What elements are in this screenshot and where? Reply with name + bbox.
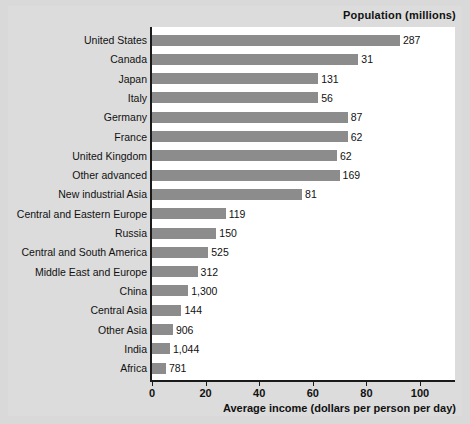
- bar-row: France62: [0, 130, 470, 144]
- bar-population-label: 287: [403, 33, 421, 47]
- bar-population-label: 312: [201, 265, 219, 279]
- category-label: China: [0, 284, 147, 298]
- bar: [152, 305, 181, 316]
- x-tick-80: [366, 380, 367, 386]
- x-tick-label-40: 40: [253, 387, 265, 399]
- bar-population-label: 87: [351, 110, 363, 124]
- category-label: Japan: [0, 72, 147, 86]
- bar-population-label: 150: [219, 226, 237, 240]
- category-label: Central and South America: [0, 245, 147, 259]
- bar-population-label: 1,044: [173, 342, 199, 356]
- bar-population-label: 31: [361, 52, 373, 66]
- bar: [152, 247, 208, 258]
- x-tick-label-0: 0: [149, 387, 155, 399]
- bar-row: Central and Eastern Europe119: [0, 207, 470, 221]
- bar: [152, 170, 340, 181]
- category-label: Africa: [0, 361, 147, 375]
- bar: [152, 92, 318, 103]
- bar-row: Africa781: [0, 361, 470, 375]
- bar: [152, 266, 198, 277]
- bar-row: Other Asia906: [0, 323, 470, 337]
- bar: [152, 228, 216, 239]
- bar: [152, 343, 170, 354]
- bar-row: United States287: [0, 33, 470, 47]
- x-tick-20: [206, 380, 207, 386]
- bar: [152, 208, 226, 219]
- x-tick-label-20: 20: [199, 387, 211, 399]
- bar-population-label: 169: [343, 168, 361, 182]
- bar-row: Central Asia144: [0, 303, 470, 317]
- category-label: Other Asia: [0, 323, 147, 337]
- bar-population-label: 906: [176, 323, 194, 337]
- x-tick-label-100: 100: [411, 387, 429, 399]
- category-label: Canada: [0, 52, 147, 66]
- bar-population-label: 62: [340, 149, 352, 163]
- bar: [152, 285, 188, 296]
- category-label: Italy: [0, 91, 147, 105]
- x-tick-0: [152, 380, 153, 386]
- category-label: United States: [0, 33, 147, 47]
- bar: [152, 131, 348, 142]
- bar-population-label: 119: [229, 207, 246, 221]
- bar-population-label: 1,300: [191, 284, 217, 298]
- x-tick-label-60: 60: [307, 387, 319, 399]
- bar: [152, 112, 348, 123]
- bar: [152, 54, 358, 65]
- category-label: United Kingdom: [0, 149, 147, 163]
- chart-figure: Population (millions) 020406080100 Unite…: [0, 0, 470, 424]
- chart-title-population: Population (millions): [343, 9, 456, 21]
- bar-population-label: 131: [321, 72, 339, 86]
- category-label: New industrial Asia: [0, 187, 147, 201]
- bar-row: Italy56: [0, 91, 470, 105]
- category-label: Middle East and Europe: [0, 265, 147, 279]
- bar-row: Canada31: [0, 52, 470, 66]
- bar-population-label: 62: [351, 130, 363, 144]
- category-label: Central and Eastern Europe: [0, 207, 147, 221]
- bar: [152, 35, 400, 46]
- bar: [152, 73, 318, 84]
- x-axis-line: [150, 380, 455, 382]
- bar-row: Other advanced169: [0, 168, 470, 182]
- bar-row: China1,300: [0, 284, 470, 298]
- x-axis-label: Average income (dollars per person per d…: [223, 402, 456, 414]
- bar: [152, 150, 337, 161]
- category-label: India: [0, 342, 147, 356]
- bar-population-label: 56: [321, 91, 333, 105]
- bar-row: United Kingdom62: [0, 149, 470, 163]
- bar: [152, 324, 173, 335]
- bar-population-label: 81: [305, 187, 317, 201]
- x-tick-100: [420, 380, 421, 386]
- category-label: Germany: [0, 110, 147, 124]
- category-label: France: [0, 130, 147, 144]
- category-label: Other advanced: [0, 168, 147, 182]
- x-tick-60: [313, 380, 314, 386]
- bar-row: Middle East and Europe312: [0, 265, 470, 279]
- bar-row: Central and South America525: [0, 245, 470, 259]
- bar-row: Germany87: [0, 110, 470, 124]
- bar: [152, 189, 302, 200]
- bar-row: Russia150: [0, 226, 470, 240]
- category-label: Central Asia: [0, 303, 147, 317]
- category-label: Russia: [0, 226, 147, 240]
- bar: [152, 363, 166, 374]
- bar-row: New industrial Asia81: [0, 187, 470, 201]
- bar-population-label: 144: [184, 303, 202, 317]
- bar-population-label: 525: [211, 245, 229, 259]
- x-tick-40: [259, 380, 260, 386]
- bar-row: Japan131: [0, 72, 470, 86]
- bar-population-label: 781: [169, 361, 187, 375]
- x-tick-label-80: 80: [360, 387, 372, 399]
- bar-row: India1,044: [0, 342, 470, 356]
